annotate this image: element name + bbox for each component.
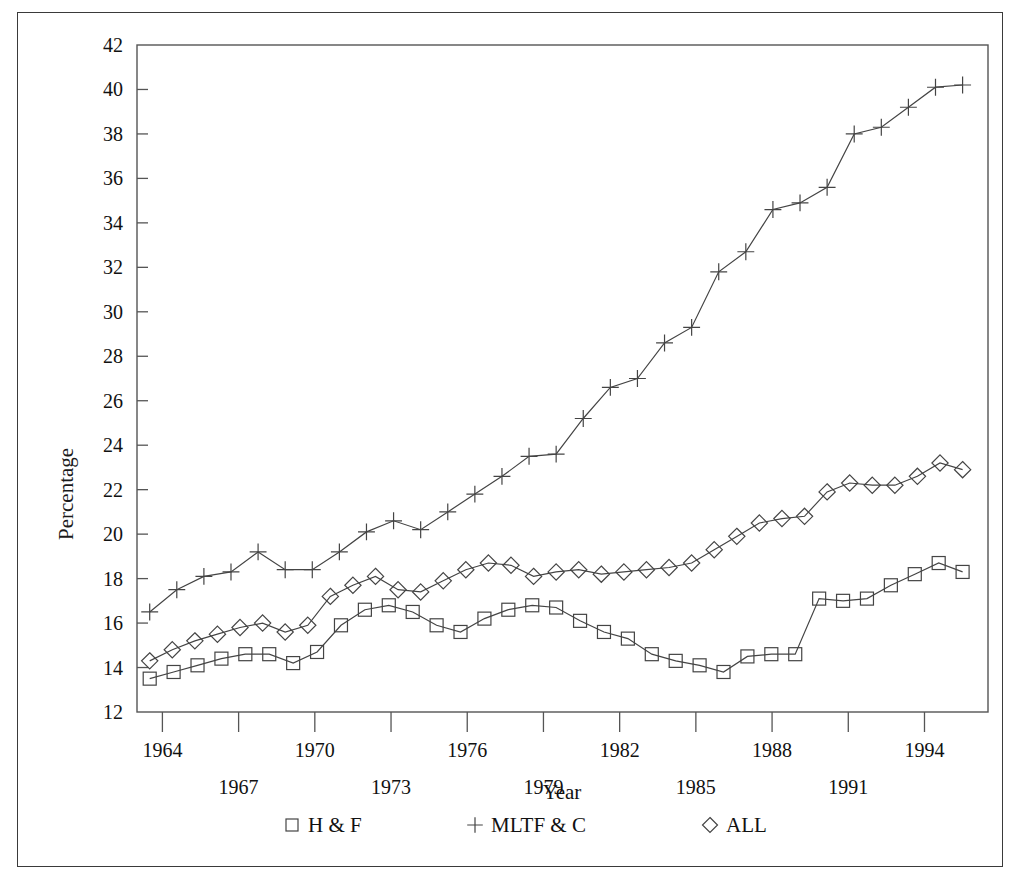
y-tick-label-26: 26 — [103, 390, 123, 412]
x-tick-label-1973: 1973 — [371, 776, 411, 798]
data-point-marker-plus — [900, 99, 917, 116]
x-tick-label-1976: 1976 — [447, 739, 487, 761]
y-tick-label-12: 12 — [103, 701, 123, 723]
y-tick-label-42: 42 — [103, 34, 123, 56]
y-tick-label-36: 36 — [103, 167, 123, 189]
x-tick-label-1991: 1991 — [828, 776, 868, 798]
y-tick-label-34: 34 — [103, 212, 123, 234]
data-point-marker-plus — [466, 486, 483, 503]
series-h-f — [143, 557, 969, 686]
data-point-marker-plus — [954, 77, 971, 94]
data-point-marker-square — [143, 672, 156, 685]
legend-label: H & F — [308, 813, 362, 837]
series-line — [150, 463, 963, 661]
data-point-marker-plus — [873, 119, 890, 136]
y-tick-label-30: 30 — [103, 301, 123, 323]
data-point-marker-plus — [792, 194, 809, 211]
x-tick-label-1988: 1988 — [752, 739, 792, 761]
legend-item-mltf-c[interactable]: MLTF & C — [467, 813, 586, 837]
y-tick-label-38: 38 — [103, 123, 123, 145]
data-point-marker-plus — [358, 523, 375, 540]
y-tick-label-14: 14 — [103, 657, 123, 679]
y-tick-label-20: 20 — [103, 523, 123, 545]
y-axis-title-wrap: Percentage — [24, 300, 64, 540]
data-point-marker-plus — [494, 468, 511, 485]
data-point-marker-plus — [385, 512, 402, 529]
legend-label: ALL — [726, 813, 767, 837]
data-point-marker-plus — [656, 334, 673, 351]
data-series-layer — [141, 77, 971, 686]
data-point-marker-plus — [141, 604, 158, 621]
data-point-marker-square — [956, 565, 969, 578]
data-point-marker-plus — [412, 521, 429, 538]
data-point-marker-plus — [331, 543, 348, 560]
data-point-marker-plus — [629, 370, 646, 387]
x-tick-label-1967: 1967 — [219, 776, 259, 798]
y-tick-label-40: 40 — [103, 78, 123, 100]
y-axis-ticks — [137, 89, 148, 667]
x-tick-label-1970: 1970 — [295, 739, 335, 761]
data-point-marker-plus — [710, 263, 727, 280]
data-point-marker-plus — [575, 410, 592, 427]
data-point-marker-plus — [304, 561, 321, 578]
data-point-marker-plus — [467, 817, 483, 833]
line-chart: 12141618202224262830323436384042 1964196… — [0, 0, 1016, 883]
series-line — [150, 85, 963, 612]
data-point-marker-square — [286, 819, 298, 831]
data-point-marker-plus — [168, 581, 185, 598]
x-tick-label-1994: 1994 — [904, 739, 944, 761]
data-point-marker-plus — [846, 125, 863, 142]
legend-item-h-f[interactable]: H & F — [286, 813, 362, 837]
data-point-marker-plus — [737, 243, 754, 260]
chart-page: 12141618202224262830323436384042 1964196… — [0, 0, 1016, 883]
y-tick-label-28: 28 — [103, 345, 123, 367]
data-point-marker-plus — [439, 503, 456, 520]
data-point-marker-plus — [223, 563, 240, 580]
data-point-marker-plus — [764, 201, 781, 218]
data-point-marker-plus — [521, 448, 538, 465]
x-axis-title: Year — [543, 780, 582, 804]
x-tick-label-1964: 1964 — [142, 739, 182, 761]
legend-item-all[interactable]: ALL — [703, 813, 767, 837]
y-tick-label-24: 24 — [103, 434, 123, 456]
data-point-marker-plus — [548, 446, 565, 463]
data-point-marker-plus — [927, 79, 944, 96]
data-point-marker-diamond — [703, 818, 718, 833]
chart-legend: H & FMLTF & CALL — [286, 813, 767, 837]
x-tick-label-1985: 1985 — [676, 776, 716, 798]
data-point-marker-plus — [683, 319, 700, 336]
data-point-marker-plus — [277, 561, 294, 578]
y-tick-label-16: 16 — [103, 612, 123, 634]
y-tick-label-22: 22 — [103, 479, 123, 501]
chart-svg: 12141618202224262830323436384042 1964196… — [0, 0, 1016, 883]
data-point-marker-plus — [195, 568, 212, 585]
y-axis-title: Percentage — [54, 448, 79, 540]
y-tick-label-18: 18 — [103, 568, 123, 590]
y-axis-tick-labels: 12141618202224262830323436384042 — [103, 34, 123, 723]
x-axis-ticks — [162, 712, 924, 732]
series-mltf-c — [141, 77, 971, 621]
data-point-marker-plus — [250, 543, 267, 560]
series-all — [142, 455, 971, 669]
y-tick-label-32: 32 — [103, 256, 123, 278]
x-tick-label-1982: 1982 — [600, 739, 640, 761]
legend-label: MLTF & C — [491, 813, 586, 837]
data-point-marker-plus — [819, 179, 836, 196]
